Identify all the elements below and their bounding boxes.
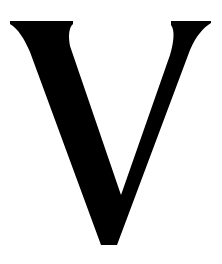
letter-canvas: V [0, 0, 222, 264]
letter-v-glyph [0, 0, 222, 264]
